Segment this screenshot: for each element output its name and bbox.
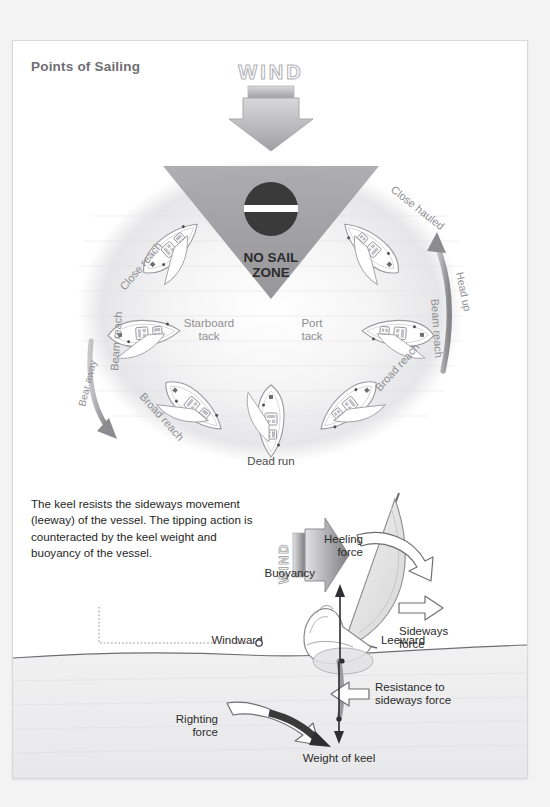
wind-arrow-down [229,86,313,151]
label-righting-force-line1: Righting [176,713,218,725]
no-sail-zone-line2: ZONE [252,265,290,280]
sailing-diagram-canvas: WIND NO SAIL ZONE [13,41,527,778]
label-heeling-force-line2: force [337,546,363,558]
label-port-tack-line1: Port [301,317,323,329]
no-sail-zone-line1: NO SAIL [244,250,299,265]
label-windward: Windward [211,634,262,646]
label-starboard-tack-line2: tack [198,330,219,342]
label-leeward: Leeward [381,634,425,646]
document-card: Points of Sailing [12,40,528,779]
label-buoyancy: Buoyancy [264,567,315,579]
points-of-sailing-diagram: WIND NO SAIL ZONE [76,61,474,467]
label-heeling-force-line1: Heeling [324,533,363,545]
label-weight-of-keel: Weight of keel [303,752,376,764]
wind-label-top: WIND [238,61,303,83]
keel-description-paragraph: The keel resists the sideways movement (… [31,496,263,562]
label-starboard-tack-line1: Starboard [184,317,235,329]
label-resistance-line2: sideways force [375,694,451,706]
label-dead-run: Dead run [247,455,294,467]
label-resistance-line1: Resistance to [375,681,445,693]
label-righting-force-line2: force [192,726,218,738]
sideways-force-arrow [399,596,443,620]
label-port-tack-line2: tack [301,330,322,342]
no-sail-zone-symbol [244,182,298,236]
